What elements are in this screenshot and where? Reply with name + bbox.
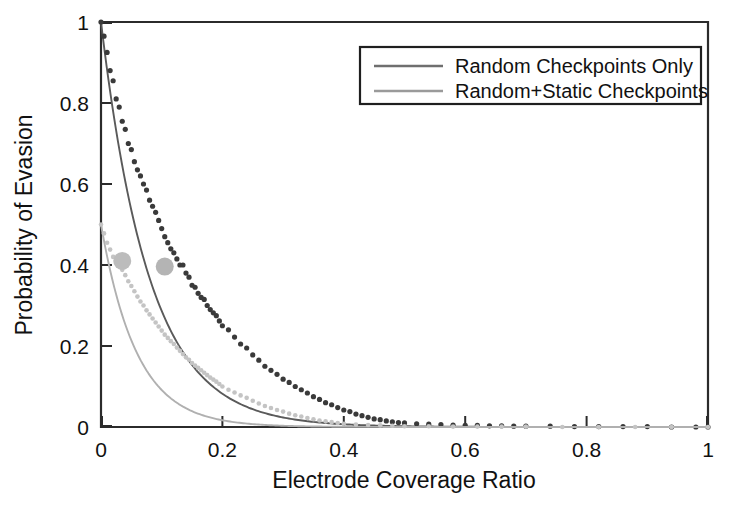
data-point xyxy=(220,323,225,328)
data-point xyxy=(281,377,286,382)
data-point xyxy=(305,416,310,421)
data-point xyxy=(180,262,185,267)
data-point xyxy=(359,413,364,418)
data-point xyxy=(126,141,131,146)
data-point xyxy=(250,398,255,403)
data-point xyxy=(104,50,109,55)
data-point xyxy=(335,405,340,410)
data-point xyxy=(238,341,243,346)
data-point xyxy=(451,424,456,429)
x-tick-label-1: 1 xyxy=(702,438,714,461)
chart-canvas: 00.20.40.60.81 00.20.40.60.81 Electrode … xyxy=(0,0,737,517)
data-point xyxy=(342,421,347,426)
data-point xyxy=(111,78,116,83)
data-point xyxy=(269,406,274,411)
data-point xyxy=(120,119,125,124)
y-tick-label-0.2: 0.2 xyxy=(60,335,89,358)
data-point xyxy=(317,397,322,402)
highlight-marker xyxy=(156,258,174,276)
data-point xyxy=(669,425,674,430)
x-tick-label-0.4: 0.4 xyxy=(329,438,359,461)
data-point xyxy=(138,173,143,178)
data-point xyxy=(402,424,407,429)
data-point xyxy=(390,423,395,428)
data-point xyxy=(214,313,219,318)
data-point xyxy=(372,416,377,421)
data-point xyxy=(132,159,137,164)
data-point xyxy=(365,415,370,420)
data-point xyxy=(144,308,149,313)
data-point xyxy=(499,424,504,429)
data-point xyxy=(257,401,262,406)
data-point xyxy=(174,256,179,261)
x-tick-label-0.6: 0.6 xyxy=(451,438,480,461)
data-point xyxy=(323,400,328,405)
data-point xyxy=(202,297,207,302)
data-point xyxy=(171,250,176,255)
data-point xyxy=(162,234,167,239)
data-point xyxy=(256,358,261,363)
y-tick-label-0: 0 xyxy=(77,416,89,439)
data-point xyxy=(414,421,419,426)
data-point xyxy=(263,404,268,409)
x-axis-title: Electrode Coverage Ratio xyxy=(272,467,535,493)
data-point xyxy=(293,413,298,418)
data-point xyxy=(141,181,146,186)
data-point xyxy=(108,68,113,73)
data-point xyxy=(396,420,401,425)
legend-label-random-checkpoints-only: Random Checkpoints Only xyxy=(455,55,693,77)
data-point xyxy=(220,384,225,389)
data-point xyxy=(156,218,161,223)
data-point xyxy=(281,409,286,414)
data-point xyxy=(217,318,222,323)
data-point xyxy=(287,380,292,385)
data-point xyxy=(244,396,249,401)
y-tick-label-0.4: 0.4 xyxy=(60,254,90,277)
data-point xyxy=(114,96,119,101)
data-point xyxy=(172,342,177,347)
data-point xyxy=(105,240,110,245)
data-point xyxy=(147,198,152,203)
y-tick-label-0.6: 0.6 xyxy=(60,173,89,196)
data-point xyxy=(102,231,107,236)
data-point xyxy=(293,384,298,389)
data-point xyxy=(129,284,134,289)
data-point xyxy=(226,387,231,392)
data-point xyxy=(426,424,431,429)
data-point xyxy=(117,104,122,109)
data-point xyxy=(226,327,231,332)
data-point xyxy=(354,422,359,427)
data-point xyxy=(311,394,316,399)
data-point xyxy=(524,424,529,429)
data-point xyxy=(129,147,134,152)
data-point xyxy=(633,425,638,430)
data-point xyxy=(135,167,140,172)
data-point xyxy=(232,334,237,339)
data-point xyxy=(378,423,383,428)
legend-label-random-static-checkpoints: Random+Static Checkpoints xyxy=(455,80,708,102)
y-tick-label-0.8: 0.8 xyxy=(60,92,89,115)
data-point xyxy=(132,289,137,294)
data-point xyxy=(232,390,237,395)
data-point xyxy=(150,316,155,321)
y-tick-label-1: 1 xyxy=(77,11,89,34)
data-point xyxy=(329,402,334,407)
data-point xyxy=(123,273,128,278)
data-point xyxy=(311,417,316,422)
data-point xyxy=(141,303,146,308)
data-point xyxy=(186,275,191,280)
data-point xyxy=(250,352,255,357)
x-tick-label-0: 0 xyxy=(95,438,107,461)
data-point xyxy=(123,127,128,132)
data-point xyxy=(101,34,106,39)
data-point xyxy=(138,299,143,304)
chart-figure: 00.20.40.60.81 00.20.40.60.81 Electrode … xyxy=(0,0,737,517)
data-point xyxy=(329,420,334,425)
data-point xyxy=(287,411,292,416)
data-point xyxy=(108,247,113,252)
data-point xyxy=(98,19,103,24)
data-point xyxy=(268,368,273,373)
data-point xyxy=(596,425,601,430)
data-point xyxy=(159,226,164,231)
data-point xyxy=(274,372,279,377)
